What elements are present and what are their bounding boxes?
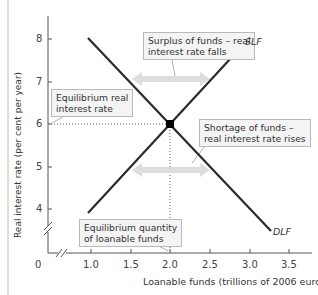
eq-rate-label: Equilibrium real interest rate (51, 89, 133, 117)
slf-label: SLF (245, 36, 262, 47)
x-axis-title: Loanable funds (trillions of 2006 euros) (143, 276, 318, 287)
y-tick-5: 5 (36, 161, 42, 172)
dlf-label: DLF (273, 226, 291, 237)
x-tick-2.5: 2.5 (202, 259, 218, 270)
eq-qty-label: Equilibrium quantity of loanable funds (79, 219, 182, 247)
shortage-label: Shortage of funds – real interest rate r… (199, 119, 311, 147)
y-tick-6: 6 (36, 118, 42, 129)
shortage-arrow (132, 163, 210, 177)
x-tick-1.5: 1.5 (123, 259, 139, 270)
surplus-arrow (132, 72, 210, 86)
x-tick-3.5: 3.5 (281, 259, 297, 270)
surplus-label: Surplus of funds – real interest rate fa… (143, 32, 255, 60)
y-tick-8: 8 (36, 33, 42, 44)
y-axis-title: Real interest rate (per cent per year) (13, 72, 23, 238)
x-tick-0: 0 (35, 259, 41, 270)
y-tick-7: 7 (36, 76, 42, 87)
equilibrium-point (166, 120, 174, 128)
y-tick-4: 4 (36, 203, 42, 214)
x-tick-2.0: 2.0 (162, 259, 178, 270)
x-tick-1.0: 1.0 (83, 259, 99, 270)
x-tick-3.0: 3.0 (242, 259, 258, 270)
